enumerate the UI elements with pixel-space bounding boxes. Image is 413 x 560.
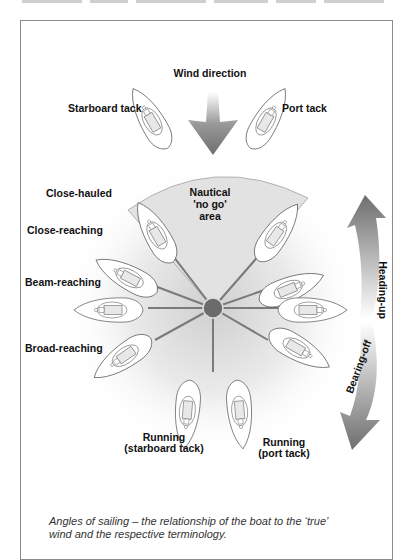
label-close-reaching: Close-reaching	[27, 224, 103, 236]
figure-caption: Angles of sailing – the relationship of …	[49, 515, 369, 541]
label-wind-direction: Wind direction	[174, 67, 247, 79]
caption-line-2: wind and the respective terminology.	[49, 528, 369, 541]
boat-icon-starboard-tack	[122, 82, 178, 154]
boat-icon-port-tack	[240, 82, 296, 154]
hub-icon	[203, 298, 223, 318]
label-beam-reaching: Beam-reaching	[25, 276, 101, 288]
label-running-starboard-line2: (starboard tack)	[124, 442, 203, 454]
label-no-go-line1: Nautical	[190, 186, 231, 198]
caption-line-1: Angles of sailing – the relationship of …	[49, 515, 369, 528]
label-close-hauled: Close-hauled	[46, 187, 112, 199]
label-broad-reaching: Broad-reaching	[25, 342, 103, 354]
label-heading-up: Heading-up	[377, 261, 389, 319]
label-port-tack: Port tack	[282, 102, 327, 114]
label-starboard-tack: Starboard tack	[68, 102, 142, 114]
label-no-go-line3: area	[199, 210, 221, 222]
label-no-go-line2: 'no go'	[193, 198, 227, 210]
wind-arrow-icon	[188, 92, 238, 155]
label-running-port-line2: (port tack)	[258, 447, 309, 459]
